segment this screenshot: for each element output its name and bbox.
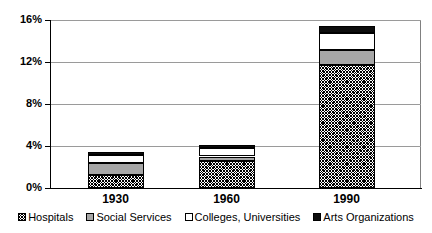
bar-segment-hospitals (319, 65, 375, 188)
y-axis-tick-label: 16% (2, 14, 42, 25)
y-tick-mark (45, 104, 50, 105)
legend-swatch-icon (313, 213, 321, 221)
x-axis-tick-label: 1960 (182, 192, 272, 206)
y-axis-tick-label: 8% (2, 98, 42, 109)
bar-segment-arts-organizations (319, 26, 375, 32)
bar-1960 (199, 20, 255, 188)
legend-swatch-icon (86, 213, 94, 221)
y-axis-tick-label: 0% (2, 182, 42, 193)
legend-label: Hospitals (28, 211, 73, 223)
bar-segment-hospitals (88, 175, 144, 188)
x-axis-line (50, 188, 422, 189)
bar-segment-arts-organizations (199, 145, 255, 148)
chart-legend: HospitalsSocial ServicesColleges, Univer… (0, 211, 432, 223)
legend-swatch-icon (185, 213, 193, 221)
bar-segment-arts-organizations (88, 152, 144, 155)
y-tick-mark (45, 20, 50, 21)
bar-segment-colleges-universities (199, 148, 255, 156)
bar-segment-colleges-universities (88, 155, 144, 163)
x-axis-tick-label: 1990 (302, 192, 392, 206)
legend-item-colleges-universities[interactable]: Colleges, Universities (185, 211, 301, 223)
legend-swatch-icon (18, 213, 26, 221)
bar-1990 (319, 20, 375, 188)
bar-segment-social-services (88, 163, 144, 176)
y-axis-tick-label: 12% (2, 56, 42, 67)
legend-item-arts-organizations[interactable]: Arts Organizations (313, 211, 413, 223)
bar-1930 (88, 20, 144, 188)
legend-label: Arts Organizations (323, 211, 413, 223)
stacked-bar-chart: 16%12%8%4%0% 193019601990 HospitalsSocia… (0, 0, 432, 233)
bar-segment-colleges-universities (319, 33, 375, 51)
legend-label: Colleges, Universities (195, 211, 301, 223)
y-axis-tick-label: 4% (2, 140, 42, 151)
y-tick-mark (45, 188, 50, 189)
y-tick-mark (45, 146, 50, 147)
legend-label: Social Services (96, 211, 171, 223)
y-tick-mark (45, 62, 50, 63)
bar-segment-social-services (199, 157, 255, 161)
bar-segment-hospitals (199, 161, 255, 188)
legend-item-social-services[interactable]: Social Services (86, 211, 171, 223)
x-axis-tick-label: 1930 (71, 192, 161, 206)
bar-segment-social-services (319, 50, 375, 65)
legend-item-hospitals[interactable]: Hospitals (18, 211, 73, 223)
